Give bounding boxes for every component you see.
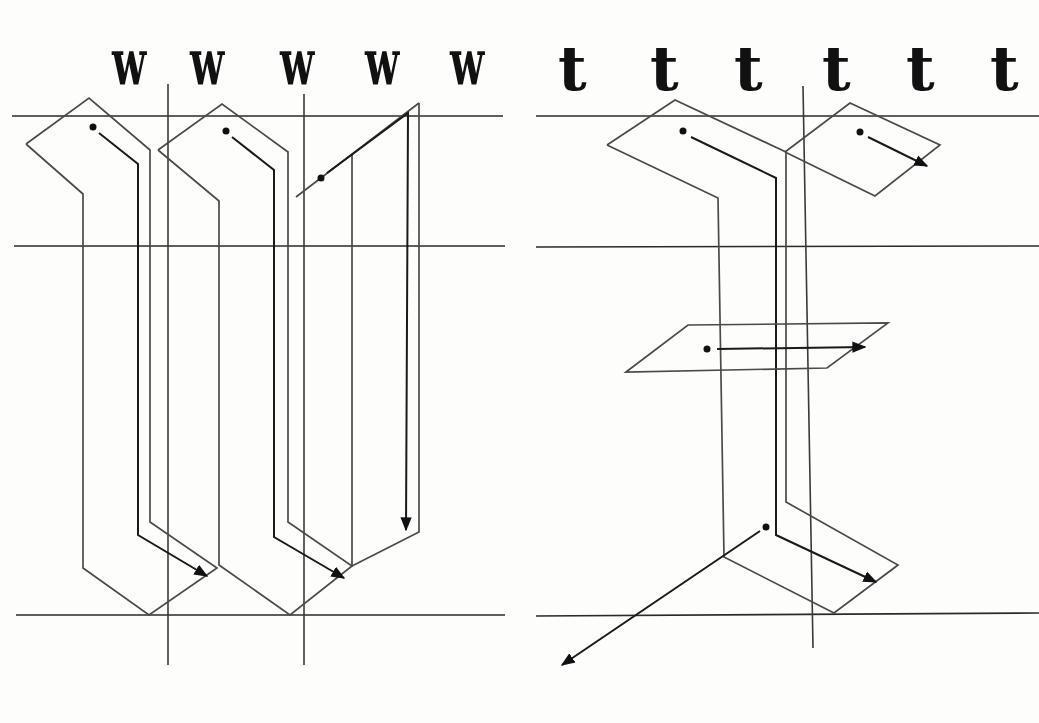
stroke-outline (352, 103, 419, 566)
pen-start-dot (704, 346, 711, 353)
stroke-direction-arrow (562, 531, 760, 665)
t-foot (562, 524, 770, 666)
t-crossbar (626, 323, 888, 372)
stroke-direction-arrow (868, 137, 927, 166)
axis-line (803, 86, 813, 648)
pen-start-dot (680, 128, 687, 135)
vertical-axes (168, 84, 813, 665)
pen-start-dot (857, 129, 864, 136)
pen-start-dot (90, 124, 97, 131)
xheight-line (536, 246, 1039, 247)
w-stroke-3 (296, 103, 419, 566)
calligraphy-plate: w w w w w t t t t t t (0, 0, 1039, 723)
stroke-direction-arrow (99, 133, 207, 576)
pen-start-dot (763, 524, 770, 531)
stroke-direction-arrow (327, 113, 408, 530)
pen-start-dot (318, 175, 325, 182)
stroke-diagram (0, 0, 1039, 723)
stroke-direction-arrow (717, 347, 865, 349)
t-flag (785, 103, 940, 196)
stroke-outline (785, 103, 940, 196)
guidelines-left (12, 116, 505, 615)
baseline-line (536, 613, 1039, 616)
pen-start-dot (223, 128, 230, 135)
